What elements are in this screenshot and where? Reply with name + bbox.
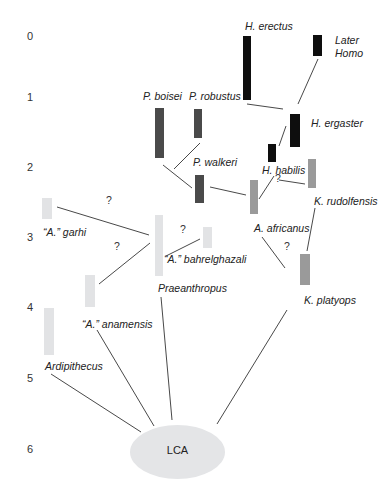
axis-tick: 5 (20, 372, 40, 384)
taxon-label-k-rudolfensis: K. rudolfensis (314, 195, 378, 208)
edge-h-ergaster-to-h-habilis (279, 126, 286, 146)
axis-tick: 2 (20, 161, 40, 173)
taxon-label-a-garhi: “A.” garhi (43, 226, 86, 239)
phylogeny-diagram: 0123456 H. erectusLaterHomoP. robustusP.… (0, 0, 392, 490)
lca-node: LCA (130, 425, 225, 479)
taxon-label-line: Homo (335, 47, 363, 60)
range-bar-later-homo (313, 35, 322, 56)
range-bar-ardipithecus (44, 308, 54, 355)
range-bar-h-ergaster (290, 114, 300, 147)
taxon-label-h-habilis: H. habilis (262, 164, 305, 177)
taxon-label-a-africanus: A. africanus (254, 222, 309, 235)
taxon-label-p-boisei: P. boisei (143, 90, 182, 103)
axis-tick: 6 (20, 443, 40, 455)
question-mark: ? (180, 223, 186, 235)
range-bar-h-erectus (243, 36, 251, 100)
range-bar-p-boisei (155, 108, 164, 158)
question-mark: ? (106, 194, 112, 206)
edge-k-platyops-to-lca (217, 310, 287, 424)
edge-a-africanus-to-k-platyops (262, 237, 285, 268)
edge-k-rudolfensis-to-h-habilis-node (279, 180, 305, 184)
edge-a-anamensis-to-praeanthropus (99, 243, 150, 284)
edge-layer (0, 0, 392, 490)
edge-praeanthropus-to-lca (161, 297, 172, 420)
range-bar-a-anamensis (85, 275, 95, 307)
edge-p-walkeri-to-a-africanus (210, 187, 246, 195)
range-bar-p-robustus (194, 109, 202, 138)
edge-ardipithecus-to-lca (51, 374, 141, 432)
taxon-label-h-erectus: H. erectus (245, 20, 293, 33)
range-bar-praeanthropus (155, 215, 163, 276)
question-mark: ? (275, 172, 281, 184)
taxon-label-a-anamensis: “A.” anamensis (82, 318, 153, 331)
range-bar-a-bahrelghazali (203, 227, 212, 248)
taxon-label-ardipithecus: Ardipithecus (45, 360, 103, 373)
taxon-label-p-robustus: P. robustus (189, 90, 241, 103)
taxon-label-h-ergaster: H. ergaster (311, 117, 363, 130)
lca-label: LCA (130, 444, 225, 456)
edge-h-habilis-to-a-africanus (259, 176, 274, 199)
taxon-label-k-platyops: K. platyops (304, 294, 356, 307)
taxon-label-a-bahrelghazali: “A.” bahrelghazali (164, 253, 246, 266)
range-bar-k-platyops (300, 254, 310, 285)
edge-later-homo-to-h-ergaster (298, 59, 318, 104)
axis-tick: 1 (20, 91, 40, 103)
range-bar-k-rudolfensis (308, 159, 316, 188)
axis-tick: 0 (20, 30, 40, 42)
taxon-label-p-walkeri: P. walkeri (193, 156, 237, 169)
range-bar-p-walkeri (195, 175, 204, 203)
edge-h-erectus-to-h-ergaster (247, 104, 283, 109)
taxon-label-praeanthropus: Praeanthropus (158, 282, 227, 295)
range-bar-a-africanus (250, 180, 258, 214)
range-bar-h-habilis (268, 144, 276, 162)
axis-tick: 3 (20, 231, 40, 243)
taxon-label-line: Later (335, 34, 363, 47)
question-mark: ? (284, 240, 290, 252)
axis-tick: 4 (20, 301, 40, 313)
edge-p-boisei-to-p-walkeri (163, 165, 192, 188)
question-mark: ? (114, 240, 120, 252)
range-bar-a-garhi (42, 198, 52, 219)
edge-a-anamensis-to-lca (97, 330, 154, 426)
taxon-label-later-homo: LaterHomo (335, 34, 363, 60)
